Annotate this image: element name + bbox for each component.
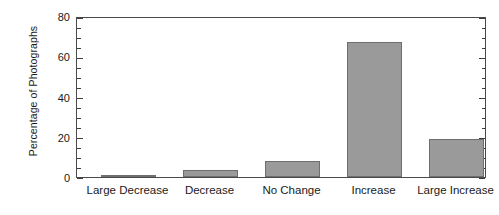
y-tick-label-20: 20 (44, 133, 70, 144)
y-tick-major-right-0 (479, 178, 485, 179)
bar-series (77, 18, 485, 177)
y-tick-major-0 (77, 178, 83, 179)
y-tick-label-80: 80 (44, 12, 70, 23)
bar-no-change (265, 161, 320, 177)
y-tick-label-60: 60 (44, 52, 70, 63)
plot-area (76, 17, 486, 178)
bar-large-increase (429, 139, 484, 177)
x-tick-label-large-increase: Large Increase (395, 182, 499, 198)
bar-chart-figure: Percentage of Photographs 80 60 40 20 0 (0, 0, 499, 215)
y-tick-label-40: 40 (44, 93, 70, 104)
x-axis-tick-labels: Large Decrease Decrease No Change Increa… (76, 182, 486, 202)
bar-increase (347, 42, 402, 177)
bar-decrease (183, 170, 238, 177)
bar-large-decrease (101, 175, 156, 177)
y-axis-tick-labels: 80 60 40 20 0 (40, 17, 70, 178)
